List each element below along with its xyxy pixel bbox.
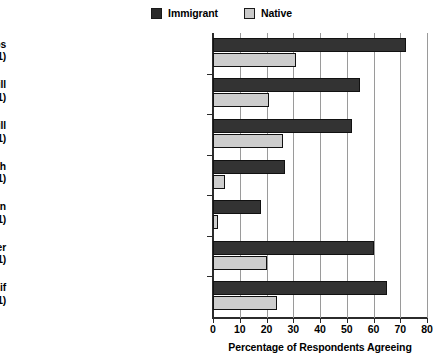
x-tick-label-80: 80: [421, 324, 433, 335]
category-label-line: Asian people will: [0, 120, 6, 133]
gridline-60: [374, 33, 375, 318]
category-label-line: improve life here. (p < .001): [0, 133, 6, 146]
category-label-line: Immigrants (do not) take jobs: [0, 39, 6, 52]
x-tick-label-50: 50: [341, 324, 353, 335]
bar-native-row-2: [213, 134, 283, 148]
bar-native-row-0: [213, 53, 296, 67]
gridline-20: [267, 33, 268, 318]
legend-label-native: Native: [261, 8, 292, 19]
bar-native-row-5: [213, 256, 267, 270]
y-tick-4: [207, 195, 213, 196]
gridline-10: [240, 33, 241, 318]
bar-chart: Immigrant Native 01020304050607080 Immig…: [0, 0, 443, 363]
chart-legend: Immigrant Native: [0, 8, 443, 19]
bar-immigrant-row-5: [213, 241, 374, 255]
category-label-line: There would (not) be fewer problems if: [0, 282, 6, 295]
x-tick-label-0: 0: [210, 324, 216, 335]
bar-immigrant-row-4: [213, 200, 261, 214]
category-label-line: from natives. (p < .001): [0, 51, 6, 64]
category-label-6: There would (not) be fewer problems ifth…: [0, 282, 6, 307]
legend-swatch-immigrant-icon: [151, 8, 162, 19]
gridline-80: [427, 33, 428, 318]
x-tick-label-20: 20: [261, 324, 273, 335]
y-tick-3: [207, 155, 213, 156]
bar-immigrant-row-1: [213, 78, 360, 92]
category-label-line: to speak English ASAP. (p < .001): [0, 214, 6, 227]
bar-immigrant-row-0: [213, 38, 406, 52]
category-label-line: Immigrants work harder: [0, 242, 6, 255]
x-tick-label-10: 10: [234, 324, 246, 335]
bar-native-row-1: [213, 93, 269, 107]
category-label-line: than natives. (p < .001): [0, 254, 6, 267]
category-label-line: more immigrants. (p < .001): [0, 173, 6, 186]
y-tick-6: [207, 276, 213, 277]
bar-immigrant-row-3: [213, 160, 285, 174]
bar-native-row-6: [213, 296, 277, 310]
category-label-4: Immigrants should (not have to) learnto …: [0, 201, 6, 226]
gridline-40: [320, 33, 321, 318]
x-tick-label-40: 40: [314, 324, 326, 335]
category-label-line: there were (more) immigrants. (p < .001): [0, 295, 6, 308]
gridline-50: [347, 33, 348, 318]
legend-entry-immigrant: Immigrant: [151, 8, 218, 19]
legend-swatch-native-icon: [244, 8, 255, 19]
bar-immigrant-row-2: [213, 119, 352, 133]
bar-native-row-3: [213, 175, 225, 189]
category-label-line: improve life here. (p < .001): [0, 92, 6, 105]
x-tick-label-30: 30: [287, 324, 299, 335]
legend-entry-native: Native: [244, 8, 292, 19]
y-tick-1: [207, 74, 213, 75]
x-tick-label-60: 60: [368, 324, 380, 335]
x-axis-title: Percentage of Respondents Agreeing: [213, 342, 427, 353]
legend-label-immigrant: Immigrant: [168, 8, 218, 19]
y-tick-5: [207, 236, 213, 237]
gridline-30: [293, 33, 294, 318]
gridline-70: [400, 33, 401, 318]
category-label-line: Hispanic people will: [0, 79, 6, 92]
category-label-2: Asian people willimprove life here. (p <…: [0, 120, 6, 145]
x-tick-label-70: 70: [394, 324, 406, 335]
bar-native-row-4: [213, 215, 218, 229]
category-label-line: This town would be better with: [0, 161, 6, 174]
category-label-line: Immigrants should (not have to) learn: [0, 201, 6, 214]
category-label-1: Hispanic people willimprove life here. (…: [0, 79, 6, 104]
category-label-0: Immigrants (do not) take jobsfrom native…: [0, 39, 6, 64]
bar-immigrant-row-6: [213, 281, 387, 295]
category-label-5: Immigrants work harderthan natives. (p <…: [0, 242, 6, 267]
y-tick-2: [207, 114, 213, 115]
category-label-3: This town would be better withmore immig…: [0, 161, 6, 186]
